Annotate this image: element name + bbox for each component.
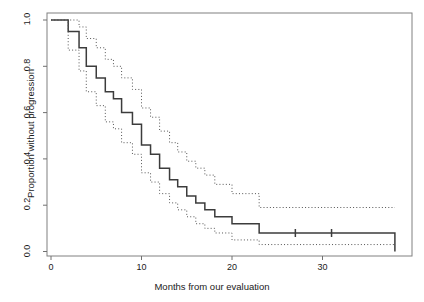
x-axis-title: Months from our evaluation — [0, 281, 424, 292]
y-axis-title: Proportion without progression — [25, 44, 36, 224]
plot-frame — [47, 13, 412, 256]
y-tick-label: 0.0 — [22, 240, 32, 262]
y-tick-label: 1.0 — [22, 8, 32, 30]
plot-area — [0, 0, 424, 302]
x-axis-ticks — [51, 256, 323, 260]
series-lines — [51, 20, 395, 252]
x-tick-label: 0 — [43, 262, 59, 272]
y-axis-ticks — [43, 20, 47, 252]
series-path — [51, 20, 395, 245]
x-tick-label: 30 — [315, 262, 331, 272]
x-tick-label: 20 — [224, 262, 240, 272]
survival-chart: 01020300.00.20.40.60.81.0 Months from ou… — [0, 0, 424, 302]
series-path — [51, 20, 395, 208]
series-path — [51, 20, 395, 252]
x-tick-label: 10 — [134, 262, 150, 272]
